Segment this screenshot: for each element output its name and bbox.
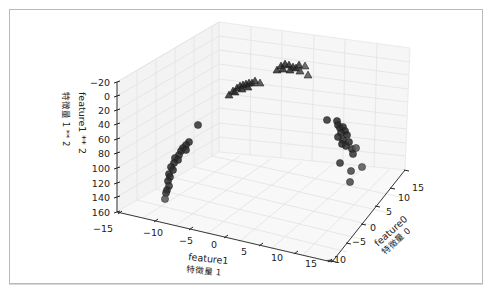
pane-right — [219, 22, 410, 170]
svg-text:15: 15 — [305, 258, 317, 269]
svg-text:0: 0 — [211, 239, 217, 250]
svg-text:−10: −10 — [143, 227, 163, 238]
svg-text:40: 40 — [98, 119, 110, 130]
svg-text:100: 100 — [92, 163, 110, 174]
svg-text:80: 80 — [98, 148, 110, 159]
svg-text:−15: −15 — [93, 223, 113, 234]
z-axis-label: feature1 ** 2 — [77, 92, 88, 154]
z-axis-label-sub: 特徴量 1 ** 2 — [61, 92, 71, 146]
svg-text:0: 0 — [370, 222, 376, 233]
svg-text:10: 10 — [271, 252, 283, 263]
svg-text:0: 0 — [104, 91, 110, 102]
svg-text:5: 5 — [386, 206, 392, 217]
svg-text:20: 20 — [98, 105, 110, 116]
svg-text:5: 5 — [241, 246, 247, 257]
y-axis-label-sub: 特徴量 1 — [186, 264, 222, 278]
svg-text:−5: −5 — [179, 235, 193, 246]
svg-text:140: 140 — [92, 192, 110, 203]
svg-text:10: 10 — [398, 192, 410, 203]
z-tick-labels: −20 0 20 40 60 80 100 120 140 160 — [90, 77, 110, 218]
svg-text:120: 120 — [92, 178, 110, 189]
chart-3d-scatter: −20 0 20 40 60 80 100 120 140 160 −15 −1… — [0, 0, 493, 293]
svg-text:160: 160 — [92, 207, 110, 218]
svg-text:−5: −5 — [352, 236, 366, 247]
svg-text:−10: −10 — [326, 254, 346, 265]
svg-text:−20: −20 — [90, 77, 110, 88]
svg-text:60: 60 — [98, 134, 110, 145]
svg-text:15: 15 — [412, 182, 424, 193]
